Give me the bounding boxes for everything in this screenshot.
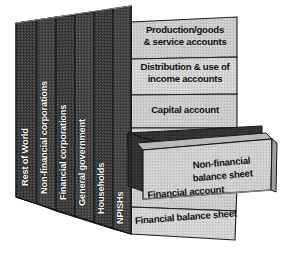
account-label-distribution-use-income-accounts: Distribution & use of income accounts bbox=[133, 61, 237, 85]
diagram-canvas: Rest of World Non-financial corporations… bbox=[0, 0, 291, 266]
account-label-production-goods-service-accounts: Production/goods & service accounts bbox=[134, 24, 236, 48]
sector-panels bbox=[16, 6, 131, 234]
account-label-capital-account: Capital account bbox=[133, 104, 237, 116]
